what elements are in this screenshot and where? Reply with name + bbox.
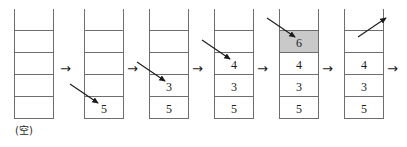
- stack-cell: 4: [344, 53, 384, 75]
- stack-cells: 35: [149, 9, 189, 119]
- stack-cell: [344, 9, 384, 31]
- stack-cell: [149, 53, 189, 75]
- stack-cell: [84, 75, 124, 97]
- stack-cell-value: 6: [296, 36, 302, 48]
- stack-cell: 5: [84, 97, 124, 119]
- stack-cell: [149, 9, 189, 31]
- stack-cell-value: 5: [361, 102, 367, 114]
- stack-cell-value: 3: [231, 80, 237, 92]
- stack-cell: 4: [214, 53, 254, 75]
- stack-cells: 435: [344, 9, 384, 119]
- stack-operation-diagram: (空)5354356435435→→→→→→: [0, 0, 407, 147]
- stack-cell: [344, 31, 384, 53]
- stack-cell-value: 4: [296, 58, 302, 70]
- stack-cell: 3: [214, 75, 254, 97]
- stack-cell: [14, 75, 54, 97]
- stack-cell-value: 3: [361, 80, 367, 92]
- stack-cell: [14, 53, 54, 75]
- stack-cell: 5: [279, 97, 319, 119]
- empty-stack-caption: (空): [15, 122, 33, 137]
- stack-cell: [84, 9, 124, 31]
- stack-cell-value: 5: [231, 102, 237, 114]
- stack-step-5: 6435: [279, 9, 319, 119]
- stack-cell: 5: [149, 97, 189, 119]
- stack-cell-value: 4: [231, 58, 237, 70]
- stack-cell: [149, 31, 189, 53]
- separator-arrow-5: →: [322, 62, 333, 75]
- stack-cell: 4: [279, 53, 319, 75]
- stack-cell-value: 5: [296, 102, 302, 114]
- stack-step-6: 435: [344, 9, 384, 119]
- stack-cell: [214, 9, 254, 31]
- stack-cell: 3: [149, 75, 189, 97]
- stack-cell: 3: [344, 75, 384, 97]
- stack-cell: 3: [279, 75, 319, 97]
- separator-arrow-6: →: [387, 62, 398, 75]
- stack-cells: 5: [84, 9, 124, 119]
- stack-cell: [214, 31, 254, 53]
- separator-arrow-1: →: [60, 62, 71, 75]
- stack-step-4: 435: [214, 9, 254, 119]
- stack-cell: [14, 97, 54, 119]
- stack-cell: [279, 9, 319, 31]
- stack-cell: [84, 53, 124, 75]
- stack-step-2: 5: [84, 9, 124, 119]
- separator-arrow-3: →: [192, 62, 203, 75]
- stack-cell: [14, 31, 54, 53]
- stack-cell: [84, 31, 124, 53]
- stack-cell-value: 5: [101, 102, 107, 114]
- separator-arrow-4: →: [257, 62, 268, 75]
- stack-step-3: 35: [149, 9, 189, 119]
- stack-cell: 6: [279, 31, 319, 53]
- stack-cell-value: 3: [166, 80, 172, 92]
- stack-cell-value: 3: [296, 80, 302, 92]
- stack-cell: 5: [214, 97, 254, 119]
- stack-cells: 6435: [279, 9, 319, 119]
- stack-step-1: [14, 9, 54, 119]
- stack-cells: [14, 9, 54, 119]
- stack-cell: [14, 9, 54, 31]
- stack-cell: 5: [344, 97, 384, 119]
- stack-cell-value: 4: [361, 58, 367, 70]
- separator-arrow-2: →: [127, 62, 138, 75]
- stack-cell-value: 5: [166, 102, 172, 114]
- stack-cells: 435: [214, 9, 254, 119]
